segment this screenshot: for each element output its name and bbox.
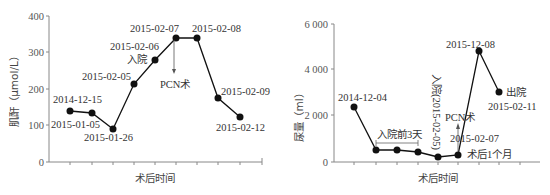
annotation-pcn: PCN术 xyxy=(445,112,476,123)
x-axis-label: 术后时间 xyxy=(418,172,458,184)
annotation-pre-admission: 入院前3天 xyxy=(377,128,423,140)
creatinine-chart: 400 300 200 100 0 术后时间 肌酐（μmol/L） 2014-1 xyxy=(8,11,270,184)
point-label: 2015-02-08 xyxy=(192,23,241,34)
y-tick: 300 xyxy=(28,47,44,58)
point-label: 2015-12-08 xyxy=(446,39,495,50)
annotation-admission: 入院 xyxy=(127,53,148,65)
point-label: 2015-01-05 xyxy=(51,119,100,130)
y-axis-label: 尿量（ml） xyxy=(293,88,305,141)
point-label: 2015-02-09 xyxy=(221,86,270,97)
bracket xyxy=(376,140,418,146)
point-label: 2015-02-11 xyxy=(488,101,537,112)
point-label: 2014-12-15 xyxy=(53,94,102,105)
point-label: 2015-02-07 xyxy=(450,133,499,144)
point-label: 2015-02-12 xyxy=(216,122,265,133)
y-tick: 0 xyxy=(323,157,328,168)
figure: 400 300 200 100 0 术后时间 肌酐（μmol/L） 2014-1 xyxy=(0,0,550,195)
point-label: 2015-02-07 xyxy=(130,23,179,34)
point-label: 2015-02-05 xyxy=(82,71,131,82)
annotation-admission: 入院(2015-02-05) xyxy=(430,74,443,150)
point-label: 2015-02-06 xyxy=(110,41,159,52)
y-tick: 100 xyxy=(28,120,44,131)
point-label: 2015-01-26 xyxy=(84,132,133,143)
urine-volume-chart: 6 000 4 000 2 000 0 术后时间 尿量（ml） 入院前3天 xyxy=(293,19,540,184)
y-tick: 0 xyxy=(39,157,44,168)
y-tick: 4 000 xyxy=(304,64,328,75)
y-tick: 2 000 xyxy=(304,110,328,121)
y-tick: 200 xyxy=(28,84,44,95)
y-axis-label: 肌酐（μmol/L） xyxy=(8,51,20,127)
annotation-one-month: 术后1个月 xyxy=(467,149,512,160)
point-label: 2014-12-04 xyxy=(338,92,388,103)
annotation-pcn: PCN术 xyxy=(160,79,191,90)
y-tick: 6 000 xyxy=(304,19,328,30)
y-tick: 400 xyxy=(28,11,44,22)
annotation-discharge: 出院 xyxy=(506,86,527,98)
x-axis-label: 术后时间 xyxy=(135,172,175,184)
